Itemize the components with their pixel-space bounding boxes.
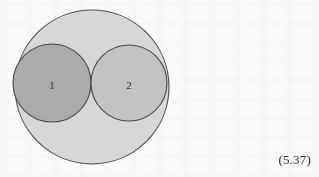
- inner-circle-1-label: 1: [49, 79, 55, 91]
- equation-number: (5.37): [278, 152, 311, 168]
- tangent-circles-figure: 1 2: [0, 0, 319, 177]
- figure-container: 1 2 (5.37): [0, 0, 319, 177]
- inner-circle-2-label: 2: [126, 79, 132, 91]
